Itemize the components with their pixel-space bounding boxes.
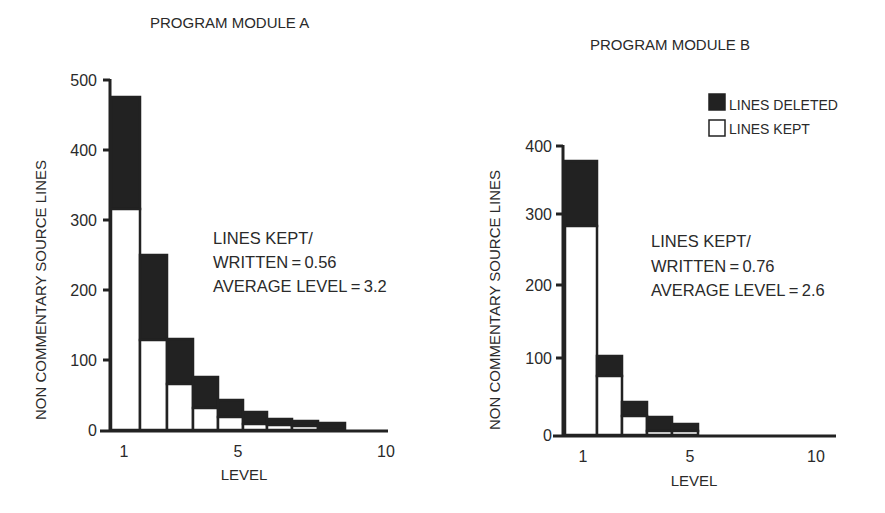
chart-a-note-line-2: WRITTEN = 0.56 <box>213 253 337 271</box>
chart-a-ytick-0: 0 <box>88 422 97 439</box>
chart-a-ytick-500: 500 <box>70 72 97 89</box>
chart-b-bar-4-kept <box>647 431 672 435</box>
chart-a-bar-4-kept <box>193 408 218 430</box>
legend-label-kept: LINES KEPT <box>729 121 810 137</box>
chart-a-bar-6-kept <box>243 424 267 430</box>
chart-b-ytick-200: 200 <box>525 277 552 294</box>
chart-a-y-axis-label: NON COMMENTARY SOURCE LINES <box>32 160 49 420</box>
chart-b-bar-1-kept <box>565 226 597 435</box>
chart-b-bar-3-deleted <box>622 402 647 416</box>
chart-a-bar-5-deleted <box>218 400 243 417</box>
chart-b-ytick-100: 100 <box>525 350 552 367</box>
legend-label-deleted: LINES DELETED <box>729 97 838 113</box>
chart-b-y-axis-label: NON COMMENTARY SOURCE LINES <box>486 170 503 430</box>
chart-a-xtick-1: 1 <box>120 443 129 460</box>
chart-a-title: PROGRAM MODULE A <box>150 14 309 31</box>
chart-canvas: PROGRAM MODULE A NON COMMENTARY SOURCE L… <box>0 0 885 513</box>
chart-a-bar-1-kept <box>111 209 140 430</box>
chart-a-bar-2-kept <box>140 340 167 430</box>
chart-a-bar-9-deleted <box>318 423 345 430</box>
chart-b-title: PROGRAM MODULE B <box>590 36 750 53</box>
chart-a-ytick-200: 200 <box>70 282 97 299</box>
chart-b-note-line-3: AVERAGE LEVEL = 2.6 <box>651 281 825 299</box>
chart-b-note-line-2: WRITTEN = 0.76 <box>651 257 775 275</box>
chart-b-ytick-0: 0 <box>543 427 552 444</box>
chart-a-bar-5-kept <box>218 417 243 430</box>
chart-a-ytick-100: 100 <box>70 352 97 369</box>
chart-b-x-axis-label: LEVEL <box>671 472 718 489</box>
chart-a-bar-8-kept <box>292 426 318 430</box>
chart-b-bar-1-deleted <box>565 161 597 226</box>
chart-b-bar-3-kept <box>622 416 647 435</box>
chart-a-note-line-3: AVERAGE LEVEL = 3.2 <box>213 277 387 295</box>
chart-b-xtick-1: 1 <box>579 448 588 465</box>
chart-b-bar-4-deleted <box>647 417 672 431</box>
chart-a-bar-1-deleted <box>111 97 140 209</box>
chart-b-xtick-5: 5 <box>686 448 695 465</box>
chart-b-xtick-10: 10 <box>807 448 825 465</box>
chart-b-bar-5-kept <box>672 431 698 435</box>
chart-a-bar-6-deleted <box>243 412 267 424</box>
chart-a-xtick-5: 5 <box>234 443 243 460</box>
chart-b-bar-2-kept <box>597 376 622 435</box>
chart-a-ytick-300: 300 <box>70 212 97 229</box>
chart-a-xtick-10: 10 <box>377 443 395 460</box>
chart-a-x-axis-label: LEVEL <box>221 466 268 483</box>
chart-a-bar-2-deleted <box>140 255 167 340</box>
figure: PROGRAM MODULE A NON COMMENTARY SOURCE L… <box>0 0 885 513</box>
chart-b-ytick-300: 300 <box>525 206 552 223</box>
chart-a-ytick-400: 400 <box>70 142 97 159</box>
legend-swatch-kept <box>709 120 725 136</box>
legend: LINES DELETED LINES KEPT <box>709 94 838 137</box>
chart-a-note-line-1: LINES KEPT/ <box>213 229 313 247</box>
legend-swatch-deleted <box>709 94 725 110</box>
chart-b-bar-2-deleted <box>597 356 622 376</box>
chart-a-bar-3-kept <box>167 384 193 430</box>
chart-b-ytick-400: 400 <box>525 138 552 155</box>
chart-b-note-line-1: LINES KEPT/ <box>651 232 751 250</box>
chart-module-a: PROGRAM MODULE A NON COMMENTARY SOURCE L… <box>32 14 395 483</box>
chart-a-bar-7-kept <box>267 425 292 430</box>
chart-module-b: PROGRAM MODULE B LINES DELETED LINES KEP… <box>486 36 838 489</box>
chart-a-bar-4-deleted <box>193 377 218 408</box>
chart-a-bar-3-deleted <box>167 339 193 384</box>
